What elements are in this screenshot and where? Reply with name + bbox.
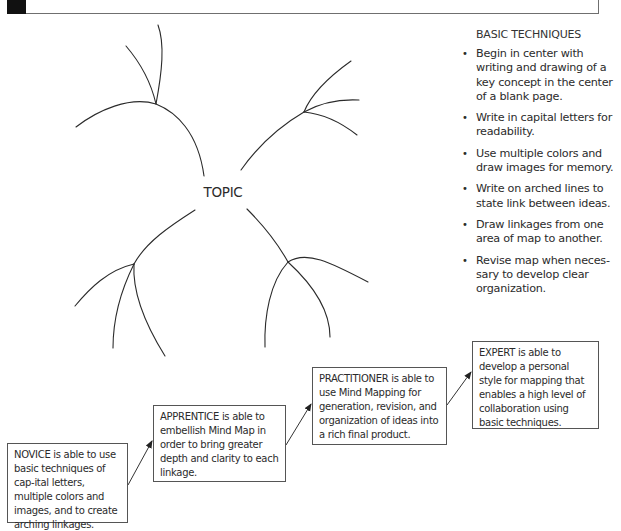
expert-box: EXPERT is able to develop a personal sty… xyxy=(472,341,599,429)
technique-item: •Draw linkages from one area of map to a… xyxy=(462,218,614,247)
arrow-apprentice-to-practitioner xyxy=(286,404,311,445)
technique-text: Use multiple colors and draw images for … xyxy=(476,147,613,174)
apprentice-text: APPRENTICE is able to embellish Mind Map… xyxy=(160,411,278,478)
technique-item: •Begin in center with writing and drawin… xyxy=(462,47,614,104)
arrow-practitioner-to-expert xyxy=(447,372,471,405)
technique-item: •Write on arched lines to state link bet… xyxy=(462,182,614,211)
apprentice-box: APPRENTICE is able to embellish Mind Map… xyxy=(153,405,286,482)
sub-branch-line xyxy=(126,46,156,104)
bullet-icon: • xyxy=(462,254,468,268)
technique-item: •Write in capital letters for readabilit… xyxy=(462,111,614,140)
basic-techniques-panel: BASIC TECHNIQUES •Begin in center with w… xyxy=(462,28,614,303)
sub-branch-line xyxy=(113,264,134,348)
technique-item: •Revise map when neces-sary to develop c… xyxy=(462,254,614,297)
bullet-icon: • xyxy=(462,111,468,125)
practitioner-box: PRACTITIONER is able to use Mind Mapping… xyxy=(312,367,447,445)
branch-bottom-left xyxy=(75,210,195,356)
sub-branch-line xyxy=(288,262,330,337)
sub-branch-line xyxy=(265,262,288,347)
sub-branch-line xyxy=(304,100,359,112)
bullet-icon: • xyxy=(462,182,468,196)
branch-top-right xyxy=(241,61,359,170)
techniques-list: •Begin in center with writing and drawin… xyxy=(462,47,614,296)
bullet-icon: • xyxy=(462,218,468,232)
technique-item: •Use multiple colors and draw images for… xyxy=(462,147,614,176)
branch-top-left xyxy=(76,25,204,176)
technique-text: Write on arched lines to state link betw… xyxy=(476,182,610,209)
branch-bottom-right xyxy=(247,209,368,347)
sub-branch-line xyxy=(304,61,351,112)
technique-text: Write in capital letters for readability… xyxy=(476,111,612,138)
branch-main-line xyxy=(134,210,195,264)
branch-main-line xyxy=(247,209,288,262)
bullet-icon: • xyxy=(462,147,468,161)
sub-branch-line xyxy=(134,264,165,356)
basic-techniques-title: BASIC TECHNIQUES xyxy=(476,28,614,41)
novice-box: NOVICE is able to use basic techniques o… xyxy=(7,443,128,523)
sub-branch-line xyxy=(304,112,357,135)
branch-main-line xyxy=(241,112,304,170)
sub-branch-line xyxy=(156,25,162,104)
sub-branch-line xyxy=(288,257,368,282)
bullet-icon: • xyxy=(462,47,468,61)
technique-text: Revise map when neces-sary to develop cl… xyxy=(476,254,610,296)
topic-label: TOPIC xyxy=(196,184,250,200)
branch-main-line xyxy=(76,102,204,176)
technique-text: Draw linkages from one area of map to an… xyxy=(476,218,604,245)
novice-text: NOVICE is able to use basic techniques o… xyxy=(14,449,117,530)
practitioner-text: PRACTITIONER is able to use Mind Mapping… xyxy=(319,373,438,440)
expert-text: EXPERT is able to develop a personal sty… xyxy=(479,347,585,428)
technique-text: Begin in center with writing and drawing… xyxy=(476,47,613,103)
arrow-novice-to-apprentice xyxy=(128,441,152,485)
